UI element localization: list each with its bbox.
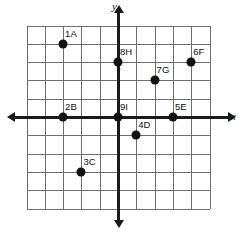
data-point[interactable] bbox=[187, 58, 196, 67]
y-axis-label: y bbox=[112, 0, 117, 12]
data-point[interactable] bbox=[77, 167, 86, 176]
data-point-label: 3C bbox=[83, 156, 95, 167]
data-point-label: 9I bbox=[120, 101, 128, 112]
data-point[interactable] bbox=[168, 113, 177, 122]
data-point-label: 2B bbox=[65, 101, 77, 112]
x-axis-arrow-left bbox=[7, 112, 15, 122]
data-point[interactable] bbox=[59, 113, 68, 122]
data-point[interactable] bbox=[114, 58, 123, 67]
data-point-label: 4D bbox=[138, 119, 150, 130]
y-axis-arrow-down bbox=[114, 220, 124, 228]
data-point-label: 8H bbox=[120, 46, 132, 57]
data-point[interactable] bbox=[150, 76, 159, 85]
x-axis-label: x bbox=[231, 110, 236, 122]
data-point[interactable] bbox=[59, 39, 68, 48]
data-point[interactable] bbox=[132, 131, 141, 140]
data-point-label: 1A bbox=[65, 28, 77, 39]
data-point-label: 7G bbox=[157, 64, 170, 75]
coordinate-plane: x y 1A2B3C4D5E6F7G8H9I bbox=[0, 0, 242, 231]
data-point-label: 6F bbox=[193, 46, 204, 57]
data-point-label: 5E bbox=[175, 101, 187, 112]
data-point[interactable] bbox=[114, 113, 123, 122]
